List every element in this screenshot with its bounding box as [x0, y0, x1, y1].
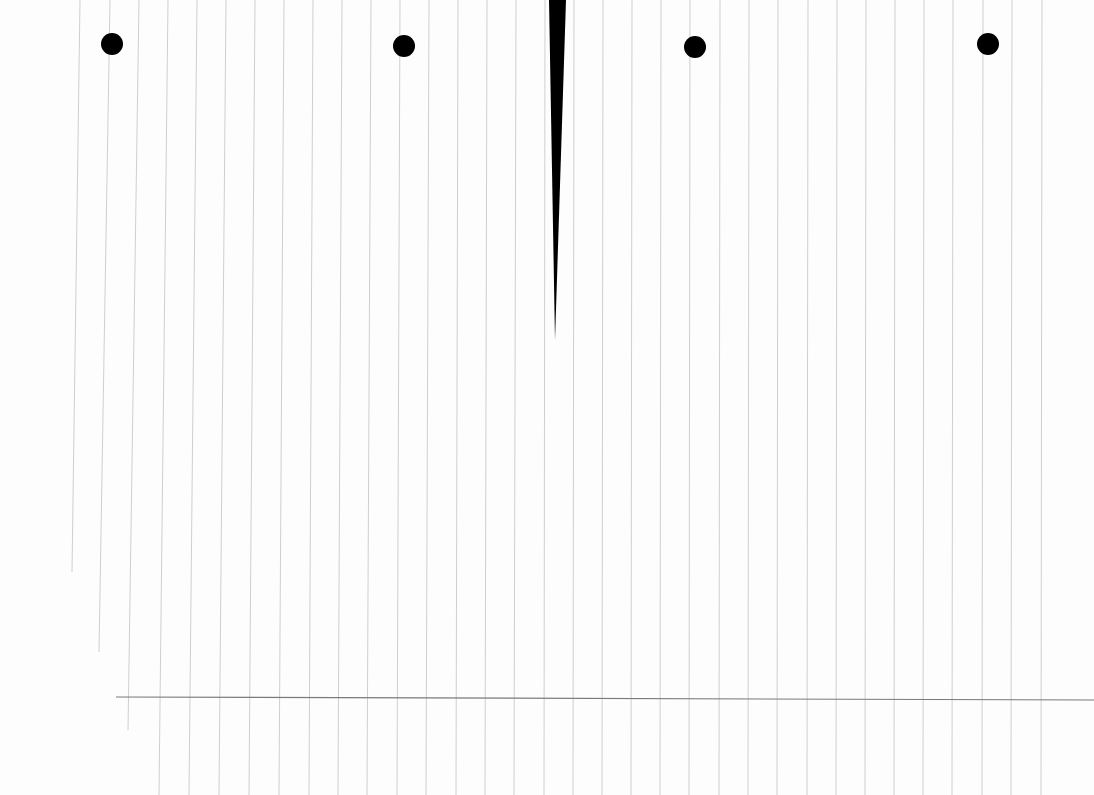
ruled-line: [660, 0, 661, 795]
ruled-line: [982, 0, 983, 795]
binder-hole: [684, 36, 706, 58]
ruled-line: [573, 0, 574, 795]
ruled-line: [923, 0, 924, 795]
ruled-line: [279, 0, 284, 795]
black-wedge-mark: [549, 0, 566, 340]
ruled-line: [719, 0, 720, 795]
ruled-line: [894, 0, 895, 795]
ruled-line: [338, 0, 342, 795]
horizontal-margin-line: [116, 697, 1094, 700]
ruled-line: [219, 0, 226, 795]
ruled-line: [836, 0, 837, 795]
ruled-line: [309, 0, 313, 795]
ruled-line: [99, 0, 110, 652]
ruled-line: [1041, 0, 1042, 795]
ruled-line: [748, 0, 749, 795]
ruled-line: [514, 0, 516, 795]
ruled-line: [128, 0, 139, 730]
ruled-line: [72, 0, 80, 572]
ruled-line: [544, 0, 545, 795]
ruled-line: [426, 0, 429, 795]
lined-paper-page: [0, 0, 1094, 795]
ruled-line: [602, 0, 603, 795]
ruled-line: [631, 0, 632, 795]
ruled-line: [189, 0, 197, 795]
ruled-line: [1011, 0, 1012, 795]
ruled-line: [456, 0, 458, 795]
binder-hole: [977, 33, 999, 55]
paper-artwork: [0, 0, 1094, 795]
ruled-line: [865, 0, 866, 795]
ruled-line: [777, 0, 778, 795]
ruled-line: [952, 0, 953, 795]
ruled-line: [249, 0, 255, 795]
ruled-line: [159, 0, 168, 795]
ruled-line: [397, 0, 400, 795]
binder-hole: [393, 35, 415, 57]
binder-hole: [101, 33, 123, 55]
ruled-line: [485, 0, 487, 795]
ruled-line: [367, 0, 371, 795]
ruled-line: [807, 0, 808, 795]
ruled-line: [689, 0, 690, 795]
